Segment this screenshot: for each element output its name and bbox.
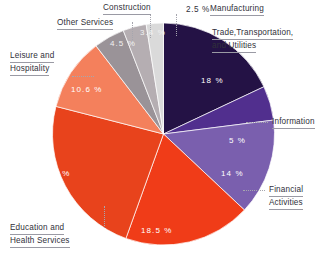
label-leisure-line2: Hospitality bbox=[10, 63, 49, 76]
label-leisure-line1: Leisure and bbox=[10, 50, 54, 63]
pie-chart: Construction 2.5 % Manufacturing Other S… bbox=[0, 0, 331, 263]
value-information: 5 % bbox=[229, 136, 246, 145]
label-education-line2: Health Services bbox=[10, 235, 70, 248]
label-construction: Construction bbox=[103, 2, 151, 15]
value-financial: 14 % bbox=[221, 169, 244, 178]
label-trade-line2: and Utilities bbox=[212, 40, 256, 53]
label-other-services: Other Services bbox=[57, 17, 113, 30]
value-education: 18.5 % bbox=[141, 226, 173, 235]
value-professional: 23.5 % bbox=[39, 169, 71, 178]
leader-line-leisure bbox=[72, 76, 94, 77]
label-other-services-text: Other Services bbox=[57, 17, 113, 30]
value-manufacturing: 2.5 % bbox=[186, 5, 210, 14]
value-leisure: 10.6 % bbox=[71, 85, 103, 94]
value-other-services: 4.5 % bbox=[110, 39, 136, 48]
label-financial-line1: Financial bbox=[269, 184, 303, 197]
value-trade: 18 % bbox=[201, 76, 224, 85]
label-manufacturing: Manufacturing bbox=[210, 3, 264, 16]
label-financial: Financial Activities bbox=[269, 184, 303, 210]
label-trade: Trade,Transportation, and Utilities bbox=[212, 27, 293, 53]
label-information: Information bbox=[272, 116, 315, 129]
label-manufacturing-text: Manufacturing bbox=[210, 3, 264, 16]
label-education: Education and Health Services bbox=[10, 222, 70, 248]
label-financial-line2: Activities bbox=[269, 197, 303, 210]
leader-line-financial bbox=[243, 190, 265, 191]
label-leisure: Leisure and Hospitality bbox=[10, 50, 54, 76]
value-construction: 3.4 % bbox=[140, 28, 166, 37]
label-education-line1: Education and bbox=[10, 222, 64, 235]
leader-line-manufacturing bbox=[176, 14, 177, 36]
pie-slices bbox=[52, 23, 274, 245]
label-trade-line1: Trade,Transportation, bbox=[212, 27, 293, 40]
leader-line-education bbox=[104, 206, 105, 228]
leader-line-information bbox=[246, 122, 268, 123]
label-information-text: Information bbox=[272, 116, 315, 129]
label-construction-text: Construction bbox=[103, 2, 151, 15]
